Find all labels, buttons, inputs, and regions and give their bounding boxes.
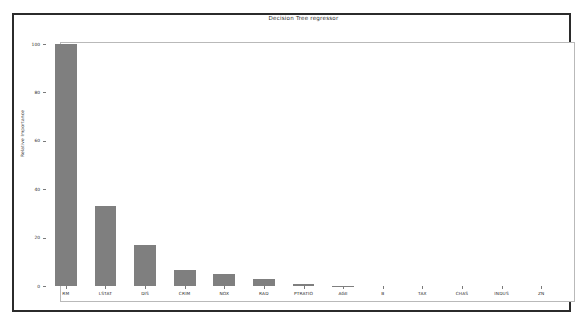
- figure-canvas: Decision Tree regressor Relative Importa…: [0, 0, 583, 325]
- y-axis-label: Relative Importance: [20, 110, 25, 157]
- chart-title: Decision Tree regressor: [46, 15, 561, 21]
- figure-border: [12, 13, 571, 312]
- plot-axes: [60, 42, 575, 302]
